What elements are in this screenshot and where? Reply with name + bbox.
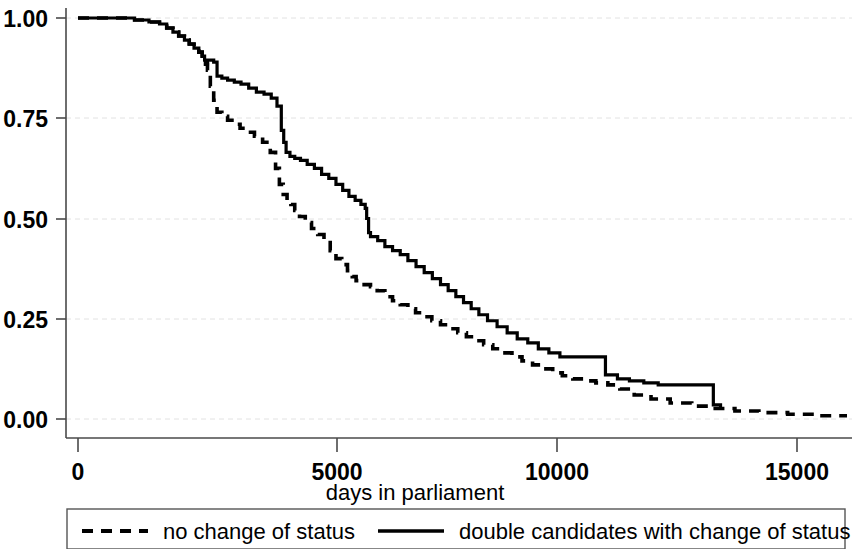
- y-tick-label-0-50: 0.50: [3, 207, 48, 233]
- x-tick-label-15000: 15000: [765, 459, 829, 485]
- survival-chart-figure: 1.00 0.75 0.50 0.25 0.00 0 5000 10000 15…: [0, 0, 859, 549]
- x-tick-label-10000: 10000: [525, 459, 589, 485]
- legend-label-no-change: no change of status: [163, 519, 355, 544]
- legend-label-double-candidates: double candidates with change of status: [459, 519, 850, 544]
- y-tick-label-0-75: 0.75: [3, 106, 48, 132]
- chart-background: [0, 0, 859, 549]
- chart-canvas: 1.00 0.75 0.50 0.25 0.00 0 5000 10000 15…: [0, 0, 859, 549]
- x-axis-title: days in parliament: [326, 480, 505, 505]
- y-tick-label-0-25: 0.25: [3, 307, 48, 333]
- y-tick-label-0-00: 0.00: [3, 407, 48, 433]
- x-tick-label-0: 0: [72, 459, 85, 485]
- y-tick-label-1-00: 1.00: [3, 6, 48, 32]
